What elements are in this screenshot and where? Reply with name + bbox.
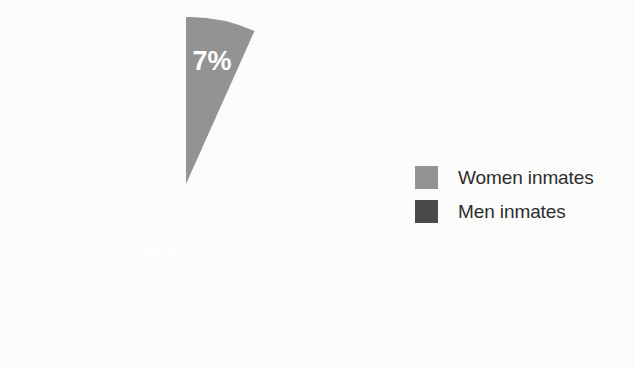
men-inmates-slice-value-label: 93% xyxy=(144,238,204,271)
pie-chart-svg: 7% 93% xyxy=(0,0,380,368)
legend-label-men-inmates: Men inmates xyxy=(458,202,566,221)
women-inmates-slice-value-label: 7% xyxy=(192,46,231,76)
legend-label-women-inmates: Women inmates xyxy=(458,168,594,187)
pie-chart-figure: 7% 93% Women inmates Men inmates xyxy=(0,0,634,368)
legend-item-women-inmates[interactable]: Women inmates xyxy=(415,160,625,194)
legend-swatch-women-inmates-icon xyxy=(415,166,438,189)
legend-swatch-men-inmates-icon xyxy=(415,200,438,223)
legend-item-men-inmates[interactable]: Men inmates xyxy=(415,194,625,228)
women-inmates-slice[interactable] xyxy=(186,17,255,184)
chart-legend: Women inmates Men inmates xyxy=(415,160,625,228)
pie-chart-plot-area: 7% 93% xyxy=(0,0,380,368)
